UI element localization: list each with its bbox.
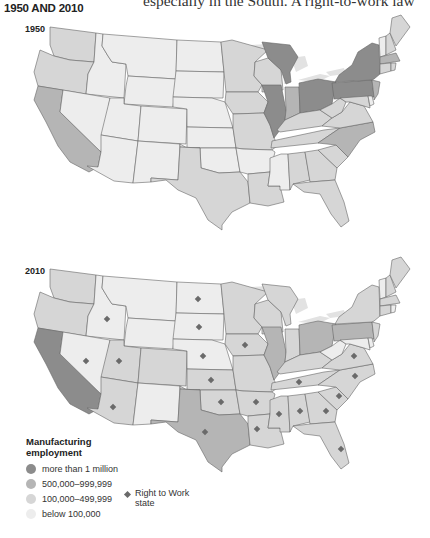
rtw-label-line2: state: [135, 498, 155, 508]
state-fl: [293, 422, 349, 469]
legend-label: 100,000–499,999: [42, 494, 112, 504]
legend-title-line2: employment: [26, 448, 118, 459]
state-fl: [293, 180, 349, 227]
legend-item-500k-999k: 500,000–999,999: [26, 476, 118, 491]
state-ms: [268, 154, 290, 190]
state-ri: [391, 305, 396, 313]
legend-title: Manufacturing employment: [26, 437, 118, 458]
legend-item-below-100k: below 100,000: [26, 506, 118, 521]
state-nm: [133, 141, 180, 183]
us-map-1950: [0, 0, 430, 250]
state-ri: [391, 63, 396, 71]
state-nm: [133, 383, 180, 425]
state-vt: [379, 36, 386, 57]
legend-title-line1: Manufacturing: [26, 437, 118, 448]
state-ct: [380, 305, 391, 316]
state-ny: [335, 285, 380, 324]
state-wy: [124, 318, 176, 349]
state-co: [138, 106, 187, 144]
legend-item-100k-499k: 100,000–499,999: [26, 491, 118, 506]
legend-swatch-icon: [26, 494, 36, 504]
right-to-work-diamond-icon: [124, 491, 131, 498]
state-vt: [379, 278, 386, 299]
state-ks: [187, 127, 236, 148]
right-to-work-label: Right to Work state: [135, 489, 189, 508]
legend-swatch-icon: [26, 479, 36, 489]
legend-item-more-than-1-million: more than 1 million: [26, 461, 118, 476]
legend: Manufacturing employment more than 1 mil…: [26, 437, 118, 521]
state-wy: [124, 76, 176, 107]
state-ct: [380, 63, 391, 74]
legend-label: more than 1 million: [42, 464, 118, 474]
state-ny: [335, 43, 380, 82]
legend-label: 500,000–999,999: [42, 479, 112, 489]
state-nd: [176, 40, 224, 72]
state-ia: [225, 92, 268, 114]
legend-swatch-icon: [26, 464, 36, 474]
state-sd: [173, 71, 224, 98]
legend-swatch-icon: [26, 509, 36, 519]
state-co: [138, 348, 187, 386]
legend-label: below 100,000: [42, 509, 101, 519]
legend-right-to-work: Right to Work state: [123, 489, 189, 508]
state-ar: [236, 148, 275, 174]
rtw-label-line1: Right to Work: [135, 488, 189, 498]
